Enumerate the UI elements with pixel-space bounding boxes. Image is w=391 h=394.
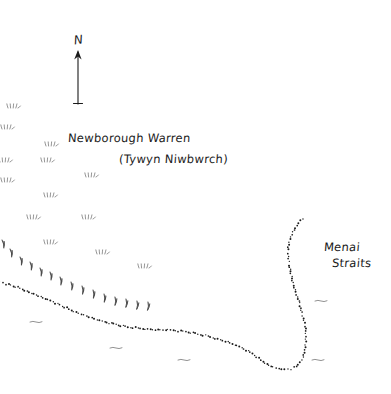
north-arrow-icon: [74, 50, 83, 104]
map-canvas: [0, 0, 391, 394]
water-label-straits: Straits: [331, 256, 372, 270]
hand-drawn-map: N Newborough Warren (Tywyn Niwbwrch) Men…: [0, 0, 391, 394]
place-label-tywyn-niwbwrch: (Tywyn Niwbwrch): [119, 152, 229, 166]
dune-ridge-hook-marks: [1, 239, 150, 310]
dotted-coastline: [0, 218, 307, 370]
north-letter-label: N: [73, 32, 84, 47]
place-label-newborough-warren: Newborough Warren: [68, 131, 192, 145]
dune-grass-tufts: [0, 104, 151, 268]
water-label-menai: Menai: [323, 240, 360, 254]
water-ripple-marks: [30, 300, 327, 360]
